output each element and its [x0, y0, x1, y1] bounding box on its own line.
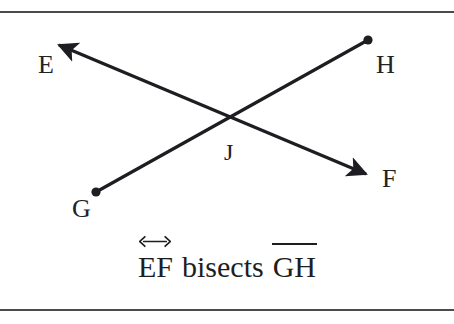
double-arrow-icon — [138, 235, 173, 248]
point-label-F: F — [382, 166, 396, 192]
point-label-J: J — [224, 140, 233, 164]
frame-rule-bottom — [0, 309, 454, 311]
point-label-G: G — [72, 196, 91, 222]
overbar-icon — [272, 243, 317, 245]
caption-line-EF: EF — [138, 252, 173, 282]
point-label-E: E — [38, 52, 54, 78]
point-label-H: H — [376, 52, 395, 78]
point-marker-G — [91, 187, 100, 196]
caption-segment-two-text: GH — [273, 250, 316, 283]
geometry-figure — [0, 0, 454, 250]
caption-segment-one-text: EF — [138, 250, 173, 283]
line-EF — [59, 45, 366, 174]
caption: EF bisects GH — [0, 252, 454, 282]
caption-segment-GH: GH — [273, 252, 316, 282]
diagram-page: E F G H J EF bisects GH — [0, 0, 454, 324]
point-marker-H — [363, 35, 372, 44]
line-EF-line — [59, 45, 366, 174]
caption-verb: bisects — [182, 250, 264, 283]
